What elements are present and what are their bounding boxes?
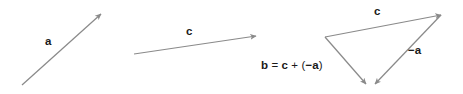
vector-canvas xyxy=(0,0,463,94)
equation-term-negative-a: −a xyxy=(305,59,318,71)
vector-subtraction-diagram: a c c −a b = c + (−a) xyxy=(0,0,463,94)
equation-close-paren: ) xyxy=(319,59,323,71)
vector-b-equation-label: b = c + (−a) xyxy=(261,60,323,72)
vector-c-triangle-label: c xyxy=(374,6,381,18)
equation-plus-sign: + ( xyxy=(288,59,305,71)
vector-a-label: a xyxy=(45,36,52,48)
vector-negative-a-label: −a xyxy=(408,45,421,57)
vector-b-line xyxy=(325,37,366,84)
vector-c-standalone-label: c xyxy=(186,26,193,38)
equation-equals-sign: = xyxy=(268,59,281,71)
vector-a-line xyxy=(22,14,101,85)
vector-c-standalone-line xyxy=(134,36,256,54)
